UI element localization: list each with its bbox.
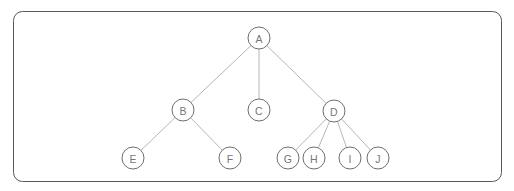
diagram-canvas: ABCDEFGHIJ — [0, 0, 514, 191]
tree-node-c[interactable]: C — [248, 99, 270, 121]
tree-node-j[interactable]: J — [367, 147, 389, 169]
node-label-h: H — [310, 153, 318, 165]
tree-node-b[interactable]: B — [172, 99, 194, 121]
node-label-g: G — [284, 153, 292, 165]
tree-diagram: ABCDEFGHIJ — [0, 0, 514, 191]
tree-node-h[interactable]: H — [303, 147, 325, 169]
tree-node-e[interactable]: E — [122, 147, 144, 169]
node-label-j: J — [375, 153, 380, 165]
node-label-b: B — [179, 105, 186, 117]
tree-node-a[interactable]: A — [248, 27, 270, 49]
node-label-e: E — [129, 153, 136, 165]
node-label-f: F — [227, 153, 234, 165]
node-label-i: I — [348, 153, 351, 165]
node-label-d: D — [330, 106, 338, 118]
node-label-c: C — [255, 105, 263, 117]
tree-node-d[interactable]: D — [323, 100, 345, 122]
tree-node-f[interactable]: F — [219, 147, 241, 169]
tree-node-g[interactable]: G — [277, 147, 299, 169]
tree-node-i[interactable]: I — [339, 147, 361, 169]
node-label-a: A — [255, 33, 262, 45]
